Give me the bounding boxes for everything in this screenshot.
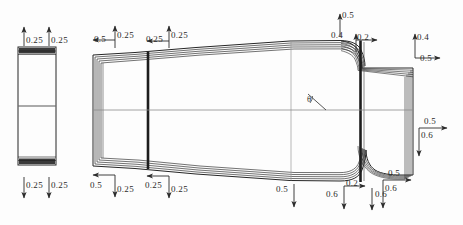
label-inlet-bottom-right: 0.25 [51, 181, 68, 190]
label-body-top-left-h: 0.5 [94, 35, 106, 44]
label-body-bottom-left-v: 0.25 [117, 185, 134, 194]
label-bottom-flare-left-v: 0.6 [326, 190, 338, 199]
internal-station-lines [148, 41, 364, 183]
label-body-bottom-mid-h: 0.25 [145, 181, 162, 190]
label-bottom-right-v: 0.6 [385, 184, 397, 193]
label-body-top-left-v: 0.25 [117, 31, 134, 40]
label-inlet-bottom-left: 0.25 [26, 181, 43, 190]
dimension-arrows [24, 14, 447, 210]
angle-symbol-label: θ [307, 95, 311, 104]
label-bottom-right-h: 0.5 [388, 169, 400, 178]
axis-centerline [18, 106, 413, 110]
label-throat-top-v: 0.5 [342, 11, 354, 20]
label-throat-02: 0.2 [357, 33, 369, 42]
label-body-top-mid-v: 0.25 [171, 31, 188, 40]
label-body-bottom-left-h: 0.5 [90, 181, 102, 190]
label-exit-right-v: 0.6 [421, 131, 433, 140]
drawing-canvas: 0.25 0.25 0.25 0.25 0.5 0.25 0.25 0.25 0… [0, 0, 463, 225]
nozzle-body-outline [93, 41, 366, 182]
label-throat-04: 0.4 [331, 31, 343, 40]
label-inlet-top-left: 0.25 [26, 36, 43, 45]
label-inlet-top-right: 0.25 [51, 36, 68, 45]
label-body-bottom-mid-v: 0.25 [171, 185, 188, 194]
label-exit-axis-h: 0.5 [420, 54, 432, 63]
label-bottom-mid-v: 0.5 [276, 185, 288, 194]
label-exit-right-h: 0.5 [424, 117, 436, 126]
label-body-top-mid-h: 0.25 [146, 35, 163, 44]
label-bottom-flare-h: 0.2 [346, 179, 358, 188]
label-exit-axis-v: 0.4 [417, 33, 429, 42]
